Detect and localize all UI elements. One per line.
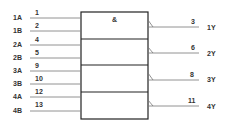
svg-text:4B: 4B (13, 107, 22, 114)
svg-text:4: 4 (35, 36, 39, 43)
svg-text:3Y: 3Y (207, 76, 216, 83)
input-4a: 4A 12 (13, 88, 81, 100)
svg-text:5: 5 (35, 49, 39, 56)
svg-text:12: 12 (35, 88, 43, 95)
svg-text:1Y: 1Y (207, 24, 216, 31)
output-3y: 8 3Y (148, 71, 216, 83)
input-1a: 1A 1 (13, 9, 81, 21)
svg-text:2Y: 2Y (207, 50, 216, 57)
svg-text:1B: 1B (13, 27, 22, 34)
input-3a: 3A 9 (13, 62, 81, 74)
svg-text:4A: 4A (13, 93, 22, 100)
and-symbol: & (112, 16, 117, 23)
output-1y: 3 1Y (148, 18, 216, 31)
svg-text:6: 6 (191, 44, 195, 51)
svg-text:3A: 3A (13, 67, 22, 74)
input-2b: 2B 5 (13, 49, 81, 61)
svg-text:2B: 2B (13, 54, 22, 61)
input-2a: 2A 4 (13, 36, 81, 48)
input-1b: 1B 2 (13, 22, 81, 34)
svg-text:3: 3 (191, 18, 195, 25)
input-4b: 4B 13 (13, 101, 81, 114)
svg-text:1: 1 (35, 9, 39, 16)
output-4y: 11 4Y (148, 97, 216, 110)
svg-text:2: 2 (35, 22, 39, 29)
svg-text:4Y: 4Y (207, 103, 216, 110)
svg-text:10: 10 (35, 75, 43, 82)
svg-text:1A: 1A (13, 14, 22, 21)
logic-diagram: & 1A 1 1B 2 2A 4 2B 5 3A 9 3B 10 4A 12 4… (0, 0, 226, 127)
svg-text:3B: 3B (13, 80, 22, 87)
input-3b: 3B 10 (13, 75, 81, 87)
svg-text:13: 13 (35, 101, 43, 108)
svg-text:8: 8 (190, 71, 194, 78)
svg-text:11: 11 (188, 97, 196, 104)
output-2y: 6 2Y (148, 44, 216, 57)
svg-text:9: 9 (35, 62, 39, 69)
svg-text:2A: 2A (13, 41, 22, 48)
